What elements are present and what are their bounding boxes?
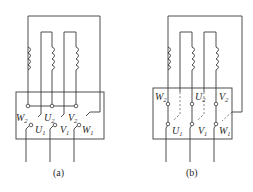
coil-icon: [76, 47, 79, 70]
motor-wiring-diagram: W2 U2 V2 U1 V1 W1 (a): [0, 0, 253, 192]
terminal-V1: [190, 122, 194, 126]
caption-a: (a): [53, 167, 64, 179]
inner-loop-a1: [41, 32, 52, 114]
coil-icon: [216, 47, 219, 70]
terminal-W2: [26, 104, 30, 108]
terminal-U2: [50, 104, 54, 108]
svg-text:W2: W2: [155, 91, 167, 103]
svg-text:V1: V1: [60, 124, 69, 136]
terminal-W1: [214, 122, 218, 126]
panel-b: W2 U2 V2 U1 V1 W1 (b): [153, 16, 242, 179]
terminal-U1: [166, 122, 170, 126]
terminal-V2: [74, 104, 78, 108]
terminal-W1: [77, 123, 81, 127]
svg-text:U2: U2: [195, 91, 206, 103]
svg-text:U2: U2: [44, 112, 55, 124]
terminal-V2: [214, 102, 218, 106]
svg-text:V1: V1: [198, 125, 207, 137]
terminal-U2: [190, 102, 194, 106]
caption-b: (b): [186, 167, 198, 179]
svg-text:W1: W1: [82, 124, 94, 136]
svg-text:U1: U1: [35, 124, 45, 136]
svg-text:U1: U1: [172, 125, 182, 137]
inner-loop-a2: [64, 32, 76, 114]
terminal-U1: [29, 123, 33, 127]
inner-loop-b1: [180, 32, 192, 92]
svg-text:W2: W2: [16, 112, 28, 124]
svg-text:V2: V2: [219, 91, 229, 103]
coil-icon: [192, 47, 195, 70]
inner-loop-b2: [204, 32, 216, 92]
svg-text:V2: V2: [68, 112, 78, 124]
svg-text:W1: W1: [219, 125, 231, 137]
coil-icon: [52, 47, 55, 70]
terminal-W2: [166, 102, 170, 106]
panel-a: W2 U2 V2 U1 V1 W1 (a): [16, 16, 104, 179]
